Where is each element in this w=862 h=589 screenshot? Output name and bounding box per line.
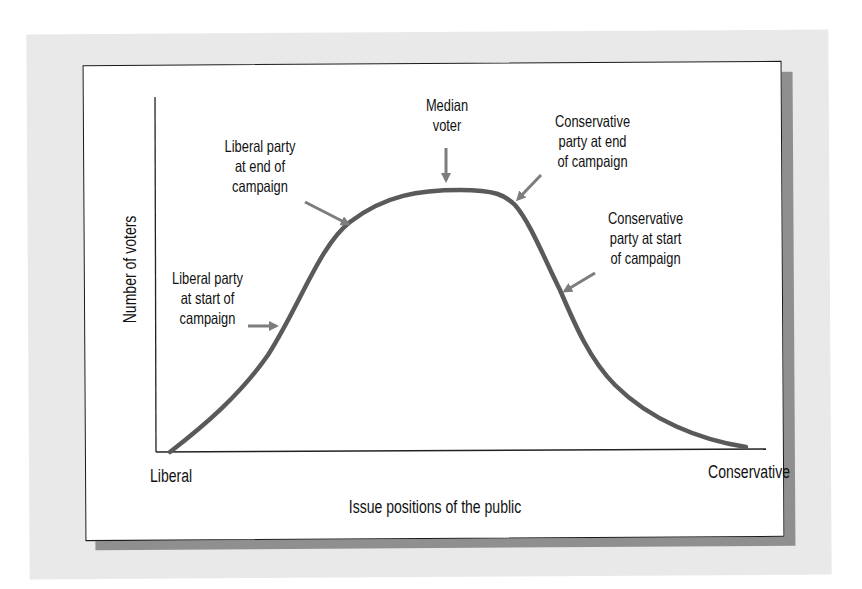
y-axis-label: Number of voters: [120, 230, 141, 324]
conservative-start-arrow: [565, 273, 595, 291]
annotation-liberal-end: Liberal party at end of campaign: [213, 136, 307, 196]
annotation-conservative-start: Conservative party at start of campaign: [597, 208, 695, 268]
annotation-median-voter: Median voter: [420, 95, 475, 135]
annotation-liberal-start: Liberal party at start of campaign: [163, 268, 253, 328]
x-axis-title: Issue positions of the public: [345, 497, 524, 518]
x-axis: [156, 449, 766, 452]
x-axis-right-label: Conservative: [684, 462, 790, 483]
liberal-end-arrow: [305, 202, 348, 224]
x-axis-left-label: Liberal: [150, 466, 192, 487]
annotation-conservative-end: Conservative party at end of campaign: [544, 111, 642, 171]
conservative-end-arrow: [518, 175, 541, 199]
y-axis: [155, 97, 156, 452]
